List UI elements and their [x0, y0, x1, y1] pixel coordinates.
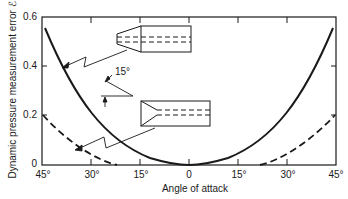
x-tick-45: 45° [328, 169, 343, 180]
x-tick-neg15: 15° [133, 169, 148, 180]
y-tick-0: 0 [31, 158, 37, 169]
y-tick-0.6: 0.6 [23, 11, 37, 22]
x-tick-neg45: 45° [35, 169, 50, 180]
plot-frame [42, 17, 336, 165]
x-tick-neg30: 30° [84, 169, 99, 180]
dashed-curve [43, 115, 117, 165]
x-tick-15: 15° [231, 169, 246, 180]
y-tick-0.2: 0.2 [23, 109, 37, 120]
dashed-curve-leader [75, 128, 155, 151]
angle-15-label: 15° [115, 66, 130, 77]
blunt-probe-drawing [141, 101, 210, 126]
x-tick-0: 0 [186, 169, 192, 180]
chart: 0.6 0.4 0.2 0 45° 30° 15° 0 15° 30° 45° … [0, 0, 348, 199]
x-axis-ticks [91, 17, 287, 165]
angle-15-annotation [101, 75, 133, 107]
y-axis-title: Dynamic pressure measurement error ℰ [7, 1, 18, 178]
y-axis-ticks [42, 66, 336, 115]
x-axis-tick-labels: 45° 30° 15° 0 15° 30° 45° [35, 169, 343, 180]
dashed-curve-right [260, 115, 335, 165]
x-tick-30: 30° [280, 169, 295, 180]
tapered-probe-drawing [117, 26, 191, 52]
y-axis-tick-labels: 0.6 0.4 0.2 0 [23, 11, 37, 169]
y-tick-0.4: 0.4 [23, 60, 37, 71]
x-axis-title: Angle of attack [162, 183, 229, 194]
